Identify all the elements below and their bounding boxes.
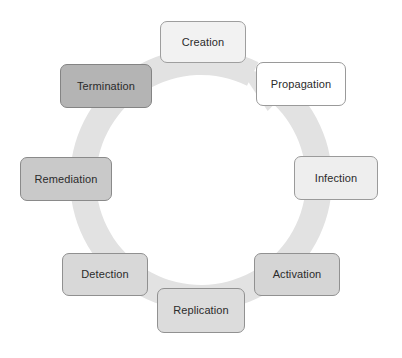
node-remediation-label: Remediation <box>35 174 98 185</box>
node-infection-label: Infection <box>315 173 357 184</box>
node-propagation[interactable]: Propagation <box>256 62 346 106</box>
node-remediation[interactable]: Remediation <box>20 157 112 201</box>
node-termination[interactable]: Termination <box>60 64 152 108</box>
node-detection-label: Detection <box>81 269 128 280</box>
node-detection[interactable]: Detection <box>62 253 148 296</box>
node-activation-label: Activation <box>273 269 322 280</box>
node-creation[interactable]: Creation <box>160 21 246 63</box>
node-creation-label: Creation <box>182 37 224 48</box>
node-activation[interactable]: Activation <box>254 253 340 296</box>
diagram-canvas: Creation Propagation Infection Activatio… <box>0 0 402 358</box>
node-replication-label: Replication <box>173 305 229 316</box>
node-propagation-label: Propagation <box>271 79 331 90</box>
node-infection[interactable]: Infection <box>294 156 378 200</box>
node-replication[interactable]: Replication <box>157 288 245 333</box>
node-termination-label: Termination <box>77 81 135 92</box>
